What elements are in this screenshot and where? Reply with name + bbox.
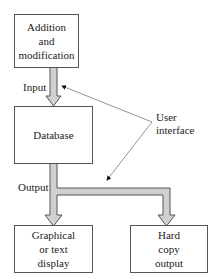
box-label: or text [39, 242, 67, 256]
box-label: copy [158, 242, 179, 256]
graphical-display-box: Graphical or text display [14, 225, 93, 273]
database-box: Database [14, 106, 93, 164]
box-label: modification [18, 48, 74, 62]
box-label: and [39, 34, 55, 48]
box-label: display [38, 256, 70, 270]
annotation-line: interface [156, 124, 194, 137]
ui-pointer-output [107, 122, 152, 180]
box-label: Graphical [32, 228, 75, 242]
input-label: Input [23, 81, 46, 94]
user-interface-label: User interface [156, 111, 194, 137]
addition-modification-box: Addition and modification [14, 14, 79, 68]
box-label: Hard [158, 228, 180, 242]
output-label: Output [18, 181, 49, 194]
hard-copy-output-box: Hard copy output [130, 225, 208, 273]
box-label: Addition [27, 20, 66, 34]
output-arrows [45, 163, 175, 226]
box-label: output [155, 256, 183, 270]
box-label: Database [33, 128, 73, 142]
annotation-line: User [156, 111, 194, 124]
input-arrow [46, 67, 61, 106]
